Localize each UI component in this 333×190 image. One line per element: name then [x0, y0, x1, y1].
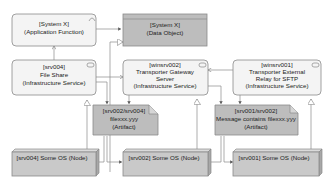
file-share-line-2: File Share: [40, 71, 69, 78]
application-function[interactable]: [System X] (Application Function): [12, 14, 96, 46]
node-1-label: [srv004] Some OS (Node): [16, 154, 87, 161]
data-object-line-1: [System X]: [150, 21, 180, 28]
app-function-line-2: (Application Function): [24, 28, 84, 35]
assignment-relation: [107, 136, 122, 162]
data-object-line-2: (Data Object): [147, 29, 184, 36]
artifact-message[interactable]: [srv001/srv002] Message contains filexxx…: [215, 105, 298, 135]
assignment-relation: [224, 136, 233, 162]
node-2-label: [srv002] Some OS (Node): [128, 154, 199, 161]
access-relation: [96, 82, 107, 104]
artifact-1-line-2: filexxx.yyy: [110, 115, 139, 122]
node-3-label: [srv001] Some OS (Node): [238, 154, 309, 161]
archimate-diagram: [System X] (Application Function) [Syste…: [0, 0, 333, 190]
app-function-line-1: [System X]: [39, 20, 69, 27]
artifact-filexxx[interactable]: [srv002/srv004] filexxx.yyy (Artifact): [93, 105, 158, 135]
artifact-2-line-1: [srv001/srv002]: [235, 107, 278, 114]
access-relation: [208, 86, 221, 104]
node-srv002[interactable]: [srv002] Some OS (Node): [123, 149, 211, 176]
transporter-relay-service[interactable]: [winsrv001] Transporter External Relay f…: [233, 60, 321, 95]
gateway-line-4: (Infrastructure Service): [134, 82, 197, 89]
node-srv004[interactable]: [srv004] Some OS (Node): [12, 149, 99, 176]
gateway-line-2: Transporter Gateway: [136, 68, 195, 75]
gateway-line-1: [winsrv002]: [149, 61, 181, 68]
transporter-gateway-service[interactable]: [winsrv002] Transporter Gateway Server (…: [123, 60, 208, 95]
artifact-1-line-3: (Artifact): [112, 123, 135, 130]
file-share-service[interactable]: [srv004] File Share (Infrastructure Serv…: [12, 60, 96, 95]
relay-line-2: Transporter External: [249, 68, 305, 75]
relay-line-3: Relay for SFTP: [256, 75, 298, 82]
artifact-2-line-3: (Artifact): [244, 123, 267, 130]
artifact-2-line-2: Message contains filexxx.yyy: [216, 115, 297, 122]
node-srv001[interactable]: [srv001] Some OS (Node): [233, 149, 322, 176]
file-share-line-1: [srv004]: [43, 63, 65, 70]
data-object[interactable]: [System X] (Data Object): [123, 14, 207, 46]
file-share-line-3: (Infrastructure Service): [23, 79, 86, 86]
relay-line-4: (Infrastructure Service): [246, 82, 309, 89]
artifact-1-line-1: [srv002/srv004]: [103, 107, 146, 114]
gateway-line-3: Server: [156, 75, 174, 82]
relay-line-1: [winsrv001]: [261, 61, 293, 68]
